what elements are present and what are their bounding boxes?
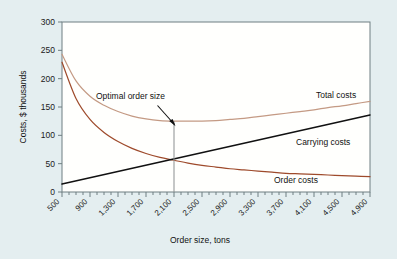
- x-tick-label: 3,700: [265, 197, 286, 218]
- x-tick-label: 2,500: [181, 197, 202, 218]
- x-tick-label: 3,300: [237, 197, 258, 218]
- y-tick-label: 250: [41, 45, 55, 55]
- x-tick-label: 2,900: [209, 197, 230, 218]
- x-axis-title: Order size, tons: [170, 235, 230, 245]
- x-tick-label: 4,900: [349, 197, 370, 218]
- x-tick-label: 1,300: [97, 197, 118, 218]
- x-tick-label: 1,700: [125, 197, 146, 218]
- x-axis-ticks: 5009001,3001,7002,1002,5002,9003,3003,70…: [46, 192, 370, 218]
- y-tick-label: 50: [46, 159, 56, 169]
- annotation-optimal-order-size: Optimal order size: [96, 91, 165, 101]
- eoq-cost-chart: 050100150200250300 5009001,3001,7002,100…: [0, 0, 397, 259]
- x-tick-label: 4,100: [293, 197, 314, 218]
- y-tick-label: 0: [50, 187, 55, 197]
- y-axis-ticks: 050100150200250300: [41, 17, 62, 197]
- chart-figure: 050100150200250300 5009001,3001,7002,100…: [0, 0, 397, 259]
- y-tick-label: 200: [41, 74, 55, 84]
- series-label-total-costs: Total costs: [316, 90, 356, 100]
- x-tick-label: 4,500: [321, 197, 342, 218]
- y-axis-title: Costs, $ thousands: [18, 71, 28, 144]
- y-tick-label: 150: [41, 102, 55, 112]
- x-tick-label: 500: [46, 197, 62, 213]
- x-tick-label: 2,100: [153, 197, 174, 218]
- x-tick-label: 900: [74, 197, 90, 213]
- y-tick-label: 100: [41, 130, 55, 140]
- series-label-order-costs: Order costs: [274, 175, 318, 185]
- series-label-carrying-costs: Carrying costs: [296, 137, 350, 147]
- y-tick-label: 300: [41, 17, 55, 27]
